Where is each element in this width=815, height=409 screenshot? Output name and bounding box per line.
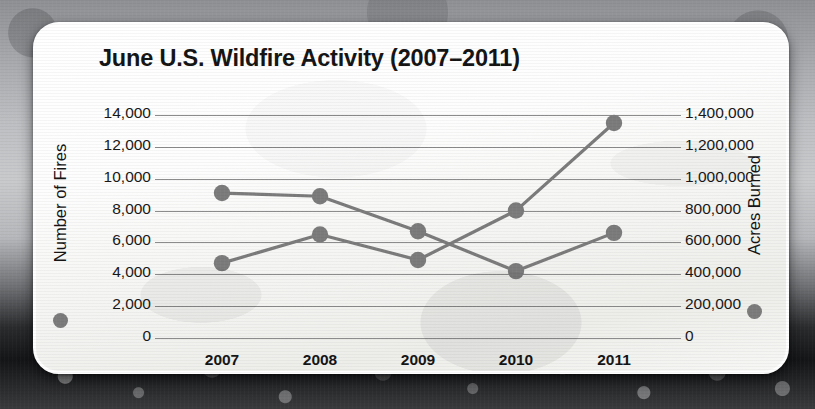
left-axis-title: Number of Fires bbox=[51, 144, 70, 262]
data-point-marker bbox=[606, 115, 622, 131]
left-axis-tick-label: 0 bbox=[142, 327, 151, 345]
right-axis-tick-label: 400,000 bbox=[685, 263, 741, 281]
plot-area: 02,0004,0006,0008,00010,00012,00014,000 … bbox=[173, 115, 663, 338]
series-line bbox=[222, 123, 614, 263]
data-point-marker bbox=[312, 188, 328, 204]
left-axis-tick-label: 2,000 bbox=[112, 295, 151, 313]
right-axis-tick-label: 200,000 bbox=[685, 295, 741, 313]
data-point-marker bbox=[214, 255, 230, 271]
right-axis-tick-label: 800,000 bbox=[685, 200, 741, 218]
right-axis-tick-label: 1,200,000 bbox=[685, 136, 754, 154]
data-point-marker bbox=[508, 202, 524, 218]
chart-card: June U.S. Wildfire Activity (2007–2011) … bbox=[33, 22, 789, 374]
data-point-marker bbox=[410, 223, 426, 239]
gridline bbox=[155, 338, 681, 339]
data-point-marker bbox=[214, 185, 230, 201]
left-axis-tick-label: 10,000 bbox=[104, 168, 151, 186]
data-point-marker bbox=[410, 252, 426, 268]
right-axis-tick-label: 1,400,000 bbox=[685, 104, 754, 122]
right-axis-tick-label: 0 bbox=[685, 327, 694, 345]
left-axis-tick-label: 4,000 bbox=[112, 263, 151, 281]
x-axis-tick-label: 2009 bbox=[401, 351, 435, 369]
left-axis-tick-label: 14,000 bbox=[104, 104, 151, 122]
x-axis-tick-label: 2010 bbox=[499, 351, 533, 369]
left-axis-tick-label: 8,000 bbox=[112, 200, 151, 218]
right-axis-tick-label: 600,000 bbox=[685, 232, 741, 250]
chart-title: June U.S. Wildfire Activity (2007–2011) bbox=[99, 45, 520, 72]
legend-dot-number-of-fires-icon bbox=[53, 313, 68, 328]
data-point-marker bbox=[312, 226, 328, 242]
x-axis-tick-label: 2008 bbox=[303, 351, 337, 369]
data-point-marker bbox=[508, 263, 524, 279]
data-point-marker bbox=[606, 225, 622, 241]
series-layer bbox=[173, 115, 663, 338]
page-background: June U.S. Wildfire Activity (2007–2011) … bbox=[0, 0, 815, 409]
x-axis-tick-label: 2011 bbox=[597, 351, 631, 369]
right-axis-tick-label: 1,000,000 bbox=[685, 168, 754, 186]
left-axis-tick-label: 12,000 bbox=[104, 136, 151, 154]
x-axis-tick-label: 2007 bbox=[205, 351, 239, 369]
left-axis-tick-label: 6,000 bbox=[112, 232, 151, 250]
legend-dot-acres-burned-icon bbox=[747, 304, 762, 319]
